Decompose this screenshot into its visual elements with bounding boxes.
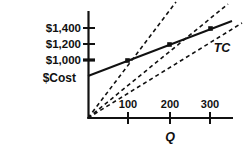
data-point-marker-q100	[125, 58, 130, 63]
y-axis-title: $Cost	[43, 71, 76, 85]
x-tick-label-300: 300	[201, 98, 219, 110]
x-axis-title: Q	[165, 130, 175, 144]
y-tick-label-1400: $1,400	[46, 22, 81, 34]
x-axis-tick-labels: 100 200 300	[119, 98, 219, 110]
y-tick-label-1200: $1,200	[46, 38, 81, 50]
y-axis-tick-labels: $1,400 $1,200 $1,000	[46, 22, 81, 66]
y-tick-label-1000: $1,000	[46, 54, 81, 66]
data-point-marker-q200	[167, 42, 172, 47]
total-cost-curve-label: TC	[214, 41, 232, 55]
total-cost-chart: $1,400 $1,200 $1,000 100 200 300 $Cost Q…	[0, 0, 250, 150]
total-cost-curve	[88, 21, 232, 76]
x-tick-label-100: 100	[119, 98, 137, 110]
data-point-marker-q300	[208, 26, 213, 31]
x-tick-label-200: 200	[161, 98, 179, 110]
